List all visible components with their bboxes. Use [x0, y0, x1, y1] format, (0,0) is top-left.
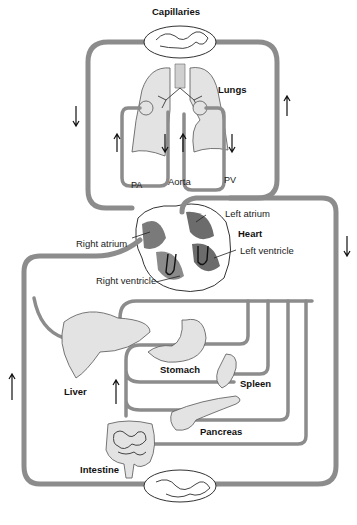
heart-label: Heart	[238, 228, 262, 239]
branch-spleen	[234, 301, 268, 374]
circulation-diagram	[0, 0, 357, 525]
left-atrium-label: Left atrium	[225, 208, 270, 219]
upper-capillary-bed	[144, 26, 216, 58]
intestine-label: Intestine	[80, 464, 119, 475]
right-ventricle-label: Right ventricle	[96, 275, 156, 286]
pv-label: PV	[224, 175, 236, 185]
lungs-label: Lungs	[218, 84, 247, 95]
hepatic-vein	[34, 298, 64, 338]
arrow-right-lower	[344, 236, 350, 256]
lower-capillary-bed	[144, 470, 216, 502]
branch-stomach	[200, 301, 248, 344]
spleen-label: Spleen	[240, 378, 271, 389]
liver-label: Liver	[64, 386, 87, 397]
capillaries-label: Capillaries	[152, 6, 200, 17]
arrow-pulm-4	[229, 134, 235, 152]
arrow-right-upper	[284, 96, 290, 116]
arrow-left-upper	[73, 106, 79, 126]
stomach-label: Stomach	[160, 364, 200, 375]
pancreas-label: Pancreas	[200, 426, 242, 437]
lungs	[132, 64, 228, 156]
stomach	[148, 319, 206, 362]
arrow-portal	[113, 380, 119, 404]
right-atrium-label: Right atrium	[76, 238, 127, 249]
aorta-label: Aorta	[168, 176, 191, 187]
arrow-left-lower	[9, 374, 15, 400]
abdominal-aorta-branch	[120, 301, 312, 318]
arrow-pulm-1	[114, 134, 120, 152]
pa-label: PA	[131, 180, 142, 190]
left-ventricle-label: Left ventricle	[240, 245, 294, 256]
